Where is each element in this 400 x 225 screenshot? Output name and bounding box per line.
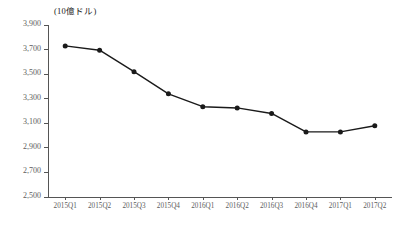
series-data-point xyxy=(304,129,309,134)
series-data-point xyxy=(166,91,171,96)
series-layer xyxy=(0,0,400,225)
series-data-point xyxy=(132,69,137,74)
series-data-point xyxy=(269,111,274,116)
series-data-point xyxy=(200,104,205,109)
series-data-point xyxy=(372,123,377,128)
series-data-point xyxy=(235,105,240,110)
series-data-point xyxy=(97,48,102,53)
series-line xyxy=(65,46,375,132)
series-data-point xyxy=(63,43,68,48)
series-data-point xyxy=(338,129,343,134)
line-chart: (10億ドル) 3,9003,7003,5003,3003,1002,9002,… xyxy=(0,0,400,225)
